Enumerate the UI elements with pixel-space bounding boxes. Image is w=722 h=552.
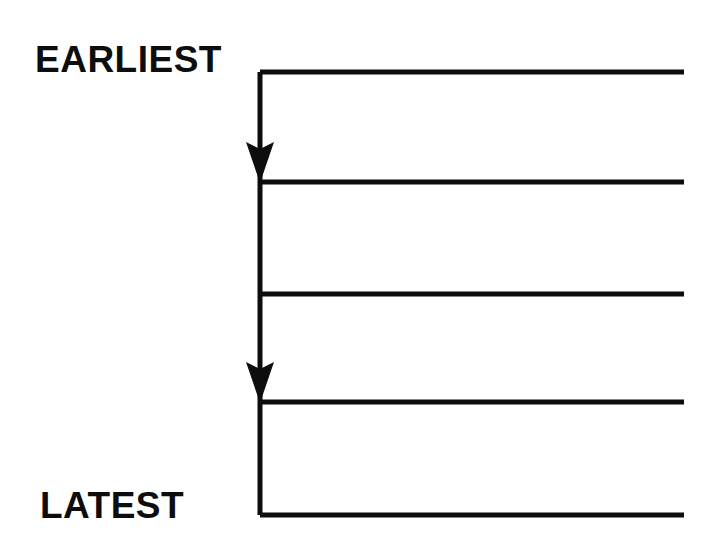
timeline-diagram: EARLIEST LATEST — [0, 0, 722, 552]
latest-label: LATEST — [40, 485, 184, 526]
earliest-label: EARLIEST — [35, 39, 222, 80]
diagram-canvas: EARLIEST LATEST — [0, 0, 722, 552]
background — [0, 0, 722, 552]
